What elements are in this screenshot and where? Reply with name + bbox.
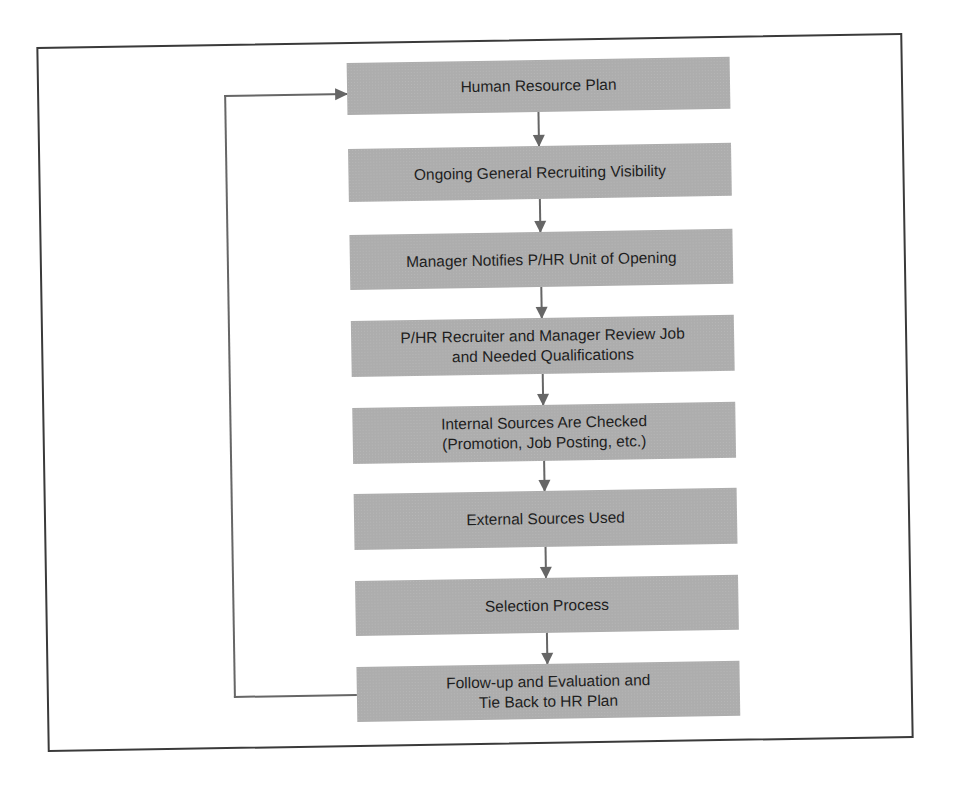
step-human-resource-plan: Human Resource Plan xyxy=(347,57,731,115)
arrow-down-icon xyxy=(540,287,543,318)
step-selection-process: Selection Process xyxy=(355,575,739,636)
arrow-down-icon xyxy=(539,199,542,232)
arrow-down-icon xyxy=(542,374,545,405)
arrow-down-icon xyxy=(545,547,548,578)
loop-line-vertical xyxy=(224,95,236,698)
step-recruiter-manager-review: P/HR Recruiter and Manager Review Job an… xyxy=(351,315,735,377)
step-follow-up-evaluation: Follow-up and Evaluation and Tie Back to… xyxy=(356,661,740,722)
diagram-frame: Human Resource Plan Ongoing General Recr… xyxy=(36,33,913,752)
arrow-down-icon xyxy=(543,461,545,491)
step-internal-sources: Internal Sources Are Checked (Promotion,… xyxy=(352,402,736,464)
loop-arrow-to-hr-plan xyxy=(224,93,347,97)
step-manager-notifies: Manager Notifies P/HR Unit of Opening xyxy=(349,229,733,290)
arrow-down-icon xyxy=(546,633,549,664)
loop-line-from-followup xyxy=(234,694,357,698)
step-ongoing-recruiting-visibility: Ongoing General Recruiting Visibility xyxy=(348,143,732,202)
arrow-down-icon xyxy=(537,112,540,146)
step-external-sources: External Sources Used xyxy=(354,488,738,550)
